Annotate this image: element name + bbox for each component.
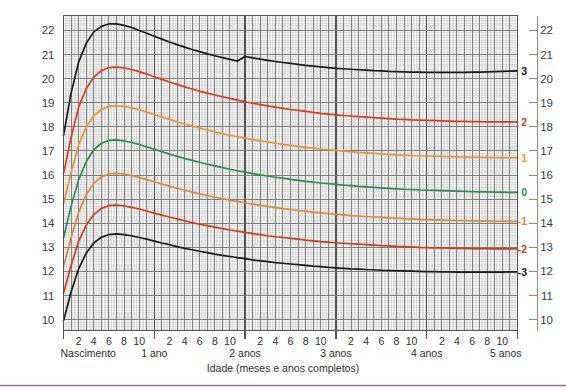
- x-month-tick-46: 10: [406, 335, 418, 347]
- x-year-label-60: 5 anos: [490, 347, 522, 359]
- x-month-tick-4: 4: [91, 335, 97, 347]
- x-year-label-24: 2 anos: [229, 347, 261, 359]
- y-tick-right-10: 10: [540, 314, 553, 326]
- z-score-label--1: -1: [518, 215, 527, 227]
- z-score-label-2: 2: [521, 116, 527, 128]
- z-score-label--2: -2: [518, 243, 527, 255]
- y-tick-right-13: 13: [540, 241, 553, 253]
- x-axis-title: Idade (meses e anos completos): [207, 362, 359, 374]
- y-tick-left-20: 20: [42, 73, 55, 85]
- y-tick-right-18: 18: [540, 121, 553, 133]
- x-month-tick-56: 8: [484, 335, 490, 347]
- x-month-tick-34: 10: [315, 335, 327, 347]
- y-tick-left-15: 15: [42, 193, 55, 205]
- x-month-tick-44: 8: [394, 335, 400, 347]
- y-tick-right-20: 20: [540, 73, 553, 85]
- x-month-tick-38: 2: [348, 335, 354, 347]
- growth-chart-svg: 10111213141516171819202122 1011121314151…: [0, 0, 566, 390]
- y-tick-right-15: 15: [540, 193, 553, 205]
- x-month-tick-8: 8: [121, 335, 127, 347]
- x-month-tick-54: 6: [469, 335, 475, 347]
- x-month-tick-14: 2: [167, 335, 173, 347]
- x-month-tick-42: 6: [378, 335, 384, 347]
- y-tick-right-16: 16: [540, 169, 553, 181]
- x-month-tick-20: 8: [212, 335, 218, 347]
- y-tick-left-14: 14: [42, 217, 55, 229]
- y-tick-left-16: 16: [42, 169, 55, 181]
- y-tick-right-19: 19: [540, 97, 553, 109]
- x-month-tick-58: 10: [497, 335, 509, 347]
- x-month-tick-18: 6: [197, 335, 203, 347]
- y-tick-left-11: 11: [43, 290, 55, 302]
- x-month-tick-50: 2: [439, 335, 445, 347]
- y-tick-left-21: 21: [42, 49, 55, 61]
- y-tick-right-11: 11: [541, 290, 553, 302]
- x-month-tick-2: 2: [76, 335, 82, 347]
- y-tick-left-19: 19: [42, 97, 55, 109]
- z-score-label--3: -3: [518, 266, 527, 278]
- y-tick-left-17: 17: [42, 145, 55, 157]
- x-month-tick-22: 10: [224, 335, 236, 347]
- x-axis-month-labels: 246810246810246810246810246810: [76, 335, 509, 347]
- y-tick-right-14: 14: [540, 217, 553, 229]
- y-tick-left-22: 22: [42, 24, 55, 36]
- z-score-labels: 3210-1-2-3: [518, 65, 528, 278]
- z-score-label-0: 0: [521, 186, 527, 198]
- y-tick-left-18: 18: [42, 121, 55, 133]
- y-tick-right-12: 12: [540, 265, 553, 277]
- x-month-tick-30: 6: [288, 335, 294, 347]
- z-score-label-1: 1: [521, 152, 527, 164]
- x-year-label-48: 4 anos: [411, 347, 443, 359]
- y-axis-labels-left: 10111213141516171819202122: [42, 24, 55, 325]
- y-tick-left-10: 10: [42, 314, 55, 326]
- x-month-tick-52: 4: [454, 335, 460, 347]
- x-month-tick-16: 4: [182, 335, 188, 347]
- x-year-label-0: Nascimento: [61, 347, 117, 359]
- y-tick-left-13: 13: [42, 241, 55, 253]
- y-tick-right-21: 21: [540, 49, 553, 61]
- x-month-tick-32: 8: [303, 335, 309, 347]
- x-month-tick-26: 2: [257, 335, 263, 347]
- x-month-tick-40: 4: [363, 335, 369, 347]
- x-month-tick-10: 10: [133, 335, 145, 347]
- y-tick-right-17: 17: [540, 145, 553, 157]
- x-month-tick-28: 4: [272, 335, 278, 347]
- growth-chart: 10111213141516171819202122 1011121314151…: [0, 0, 566, 390]
- z-score-label-3: 3: [521, 65, 527, 77]
- x-year-label-12: 1 ano: [141, 347, 167, 359]
- y-axis-labels-right: 10111213141516171819202122: [529, 16, 554, 331]
- x-year-label-36: 3 anos: [320, 347, 352, 359]
- y-tick-right-22: 22: [540, 24, 553, 36]
- x-month-tick-6: 6: [106, 335, 112, 347]
- y-tick-left-12: 12: [42, 265, 55, 277]
